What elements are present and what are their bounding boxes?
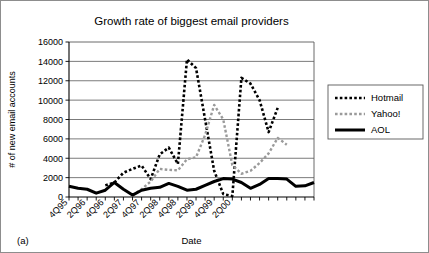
svg-text:4Q99: 4Q99 — [192, 197, 215, 220]
legend-label-yahoo: Yahoo! — [371, 108, 400, 119]
x-axis-title: Date — [181, 235, 201, 246]
growth-rate-chart: Growth rate of biggest email providers02… — [1, 1, 429, 253]
y-axis-title: # of new email accounts — [7, 71, 17, 168]
svg-text:4Q95: 4Q95 — [47, 197, 70, 220]
x-axis-tick-label: 4Q97 — [119, 197, 142, 220]
series-line-aol — [69, 179, 314, 195]
x-axis-tick-label: 2Q97 — [101, 197, 124, 220]
y-axis-tick-label: 8000 — [43, 115, 63, 125]
y-axis-tick-label: 16000 — [38, 37, 63, 47]
svg-text:2Q96: 2Q96 — [65, 197, 88, 220]
svg-text:2Q97: 2Q97 — [101, 197, 124, 220]
svg-text:2Q98: 2Q98 — [138, 197, 161, 220]
y-axis-tick-label: 12000 — [38, 76, 63, 86]
x-axis-tick-label: 2Q00 — [210, 197, 233, 220]
y-axis-tick-label: 6000 — [43, 134, 63, 144]
x-axis-tick-label: 4Q95 — [47, 197, 70, 220]
figure-panel: Growth rate of biggest email providers02… — [0, 0, 429, 253]
y-axis-tick-label: 4000 — [43, 154, 63, 164]
svg-text:4Q97: 4Q97 — [119, 197, 142, 220]
y-axis-tick-label: 2000 — [43, 173, 63, 183]
figure-caption: (a) — [17, 235, 29, 246]
svg-text:4Q98: 4Q98 — [156, 197, 179, 220]
svg-text:2Q00: 2Q00 — [210, 197, 233, 220]
svg-text:# of new email accounts: # of new email accounts — [7, 71, 17, 168]
x-axis-tick-label: 4Q99 — [192, 197, 215, 220]
x-axis-tick-label: 4Q96 — [83, 197, 106, 220]
y-axis-tick-label: 10000 — [38, 96, 63, 106]
svg-text:4Q96: 4Q96 — [83, 197, 106, 220]
x-axis-tick-label: 2Q98 — [138, 197, 161, 220]
x-axis-tick-label: 4Q98 — [156, 197, 179, 220]
svg-text:2Q99: 2Q99 — [174, 197, 197, 220]
series-line-hotmail — [105, 59, 277, 196]
legend-label-aol: AOL — [371, 124, 390, 135]
chart-title: Growth rate of biggest email providers — [94, 15, 289, 27]
y-axis-tick-label: 14000 — [38, 57, 63, 67]
legend-label-hotmail: Hotmail — [371, 92, 403, 103]
x-axis-tick-label: 2Q99 — [174, 197, 197, 220]
x-axis-tick-label: 2Q96 — [65, 197, 88, 220]
